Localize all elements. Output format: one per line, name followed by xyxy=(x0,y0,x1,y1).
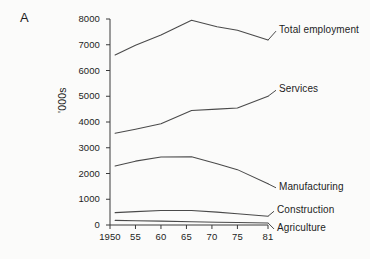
series-line xyxy=(115,96,268,133)
series-label-leader xyxy=(268,184,276,188)
x-tick-label: 55 xyxy=(121,231,149,242)
y-tick-label: 0 xyxy=(66,219,100,230)
series-label: Manufacturing xyxy=(279,181,344,192)
series-line xyxy=(115,157,268,184)
x-tick-label: 1950 xyxy=(96,231,124,242)
series-label-leader xyxy=(268,211,274,216)
series-label: Construction xyxy=(277,204,334,215)
series-line xyxy=(115,220,268,223)
y-tick-label: 2000 xyxy=(66,168,100,179)
series-label-leader xyxy=(268,90,276,96)
y-tick-label: 6000 xyxy=(66,65,100,76)
series-line xyxy=(115,20,268,55)
y-tick-label: 1000 xyxy=(66,193,100,204)
plot-area xyxy=(0,0,370,259)
employment-line-chart-figure: A '000s 01000200030004000500060007000800… xyxy=(0,0,370,259)
axes-group xyxy=(110,19,268,225)
series-label-leader xyxy=(268,31,276,40)
y-tick-marks xyxy=(106,19,110,225)
y-tick-label: 3000 xyxy=(66,142,100,153)
y-tick-label: 4000 xyxy=(66,116,100,127)
series-label-leader xyxy=(268,223,274,229)
series-label: Services xyxy=(279,83,318,94)
x-tick-label: 70 xyxy=(198,231,226,242)
y-tick-label: 7000 xyxy=(66,39,100,50)
x-tick-label: 75 xyxy=(223,231,251,242)
series-line xyxy=(115,211,268,217)
label-leader-lines xyxy=(268,31,276,229)
data-series-group xyxy=(115,20,268,223)
y-tick-label: 8000 xyxy=(66,13,100,24)
series-label: Total employment xyxy=(279,24,359,35)
y-tick-label: 5000 xyxy=(66,90,100,101)
x-tick-marks xyxy=(110,225,268,229)
series-label: Agriculture xyxy=(277,222,326,233)
x-tick-label: 65 xyxy=(172,231,200,242)
x-tick-label: 60 xyxy=(147,231,175,242)
